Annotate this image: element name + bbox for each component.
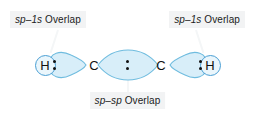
label-right-orbital-sp: sp: [174, 14, 185, 25]
atom-group-h-left: H: [35, 55, 56, 76]
label-right-word: Overlap: [204, 14, 240, 25]
label-left-orbital-1s: 1s: [31, 14, 42, 25]
label-sp-1s-overlap-right: sp–1s Overlap: [169, 11, 245, 28]
label-sp-1s-overlap-left: sp–1s Overlap: [10, 11, 86, 28]
label-bottom-word: Overlap: [125, 95, 161, 106]
label-right-orbital-1s: 1s: [191, 14, 202, 25]
molecule-diagram: H C C: [0, 48, 255, 82]
atom-h-left-label: H: [40, 59, 49, 72]
atom-c-left: C: [87, 56, 102, 74]
atom-h-left: H: [35, 55, 56, 76]
label-left-word: Overlap: [45, 14, 81, 25]
atom-c-right: C: [154, 56, 169, 74]
atom-h-right: H: [200, 55, 221, 76]
atom-h-right-label: H: [205, 59, 214, 72]
atom-c-left-label: C: [89, 58, 98, 73]
orbital-overlap-figure: sp–1s Overlap sp–1s Overlap sp–sp Overla…: [0, 0, 255, 118]
label-bottom-orbital-sp-2: sp: [111, 95, 122, 106]
orbital-lens-sp-sp: [97, 49, 159, 81]
atom-c-right-label: C: [156, 58, 165, 73]
label-bottom-orbital-sp-1: sp: [95, 95, 106, 106]
label-sp-sp-overlap-bottom: sp–sp Overlap: [90, 92, 166, 109]
label-left-orbital-sp: sp: [15, 14, 26, 25]
atom-group-h-right: H: [200, 55, 221, 76]
